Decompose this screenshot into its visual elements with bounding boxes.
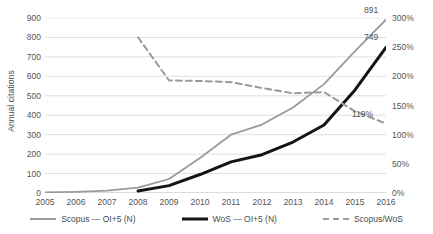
right-tick-label: 250%	[392, 43, 426, 52]
right-tick-label: 150%	[392, 102, 426, 111]
x-tick-label: 2016	[366, 198, 406, 207]
legend-item-scopus[interactable]: Scopus — OI+5 (N)	[30, 214, 135, 224]
right-tick-label: 0%	[392, 189, 426, 198]
left-tick-label: 400	[11, 111, 41, 120]
plot-svg	[45, 18, 386, 193]
legend-item-wos[interactable]: WoS — OI+5 (N)	[182, 214, 277, 224]
chart-legend: Scopus — OI+5 (N) WoS — OI+5 (N) Scopus/…	[0, 210, 433, 228]
right-tick-label: 200%	[392, 72, 426, 81]
legend-label-scopus: Scopus — OI+5 (N)	[61, 214, 135, 224]
left-tick-label: 900	[11, 14, 41, 23]
series-line-2	[138, 37, 386, 123]
right-tick-label: 50%	[392, 160, 426, 169]
series-line-0	[45, 20, 386, 193]
series-line-1	[138, 47, 386, 191]
legend-swatch-wos-line-icon	[182, 215, 208, 223]
data-label: 891	[364, 6, 378, 15]
series-lines	[45, 20, 386, 193]
left-tick-label: 100	[11, 170, 41, 179]
data-label: 749	[364, 33, 378, 42]
legend-swatch-ratio-dashed-line-icon	[323, 215, 349, 223]
left-tick-label: 500	[11, 92, 41, 101]
plot-area	[45, 18, 386, 193]
legend-label-wos: WoS — OI+5 (N)	[213, 214, 277, 224]
left-tick-label: 300	[11, 131, 41, 140]
left-tick-label: 600	[11, 72, 41, 81]
citations-line-chart: Annual citations Scopus / WoS annual rel…	[0, 0, 433, 234]
left-tick-label: 800	[11, 33, 41, 42]
data-label: 119%	[352, 110, 373, 119]
legend-item-ratio[interactable]: Scopus/WoS	[323, 214, 403, 224]
left-tick-label: 200	[11, 150, 41, 159]
right-tick-label: 100%	[392, 131, 426, 140]
legend-swatch-scopus-line-icon	[30, 215, 56, 223]
right-tick-label: 300%	[392, 14, 426, 23]
legend-label-ratio: Scopus/WoS	[354, 214, 403, 224]
left-tick-label: 700	[11, 53, 41, 62]
